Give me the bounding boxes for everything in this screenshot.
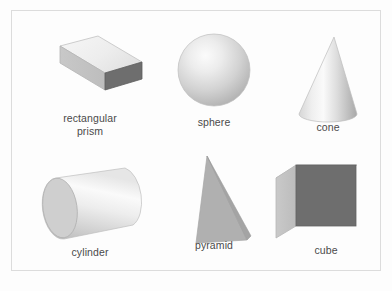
- shape-label-cylinder: cylinder: [25, 246, 155, 259]
- shape-label-pyramid: pyramid: [158, 239, 270, 252]
- shape-cell-rectangular-prism: rectangular prism: [25, 28, 155, 146]
- shape-label-rectangular-prism: rectangular prism: [25, 112, 155, 138]
- shape-label-cone: cone: [274, 121, 382, 134]
- shape-cell-pyramid: pyramid: [158, 150, 270, 274]
- shape-cell-cube: cube: [270, 156, 382, 274]
- shape-label-sphere: sphere: [158, 116, 270, 129]
- shape-cell-sphere: sphere: [158, 28, 270, 146]
- shape-label-cube: cube: [270, 244, 382, 257]
- shape-cell-cone: cone: [274, 28, 382, 146]
- shape-cell-cylinder: cylinder: [25, 156, 155, 274]
- solids-diagram: rectangular prism sphere cone cylinder p…: [0, 0, 392, 291]
